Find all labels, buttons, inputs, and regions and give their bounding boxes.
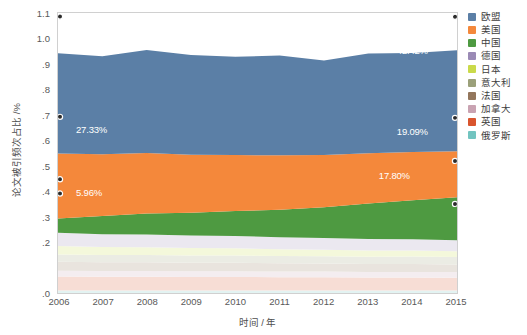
x-tick-label: 2010: [225, 296, 246, 307]
data-point-marker: [452, 158, 457, 163]
x-tick-label: 2007: [93, 296, 114, 307]
legend-item-欧盟[interactable]: 欧盟: [468, 10, 527, 23]
legend-item-label: 加拿大: [481, 104, 511, 114]
legend-swatch-icon: [468, 26, 476, 34]
area-band-加拿大: [58, 271, 457, 278]
legend-item-label: 意大利: [481, 78, 511, 88]
y-tick-label: .3: [42, 211, 50, 222]
legend-item-label: 德国: [481, 51, 501, 61]
legend-swatch-icon: [468, 118, 476, 126]
legend-swatch-icon: [468, 92, 476, 100]
legend-swatch-icon: [468, 105, 476, 113]
x-axis-ticks: 2006200720082009201020112012201320142015: [57, 296, 458, 312]
y-tick-label: .8: [42, 84, 50, 95]
x-tick-label: 2008: [137, 296, 158, 307]
x-tick-label: 2006: [48, 296, 69, 307]
legend-item-label: 中国: [481, 38, 501, 48]
legend-item-加拿大[interactable]: 加拿大: [468, 102, 527, 115]
legend-item-日本[interactable]: 日本: [468, 63, 527, 76]
x-axis-title: 时间 / 年: [57, 315, 458, 329]
x-tick-label: 2012: [313, 296, 334, 307]
area-band-俄罗斯: [58, 290, 457, 293]
legend-item-label: 法国: [481, 91, 501, 101]
legend-item-英国[interactable]: 英国: [468, 116, 527, 129]
y-tick-label: .6: [42, 135, 50, 146]
x-tick-label: 2014: [401, 296, 422, 307]
area-band-欧盟: [58, 50, 457, 155]
legend-item-label: 美国: [481, 25, 501, 35]
data-point-marker: [452, 14, 457, 19]
y-tick-label: 1.0: [37, 33, 50, 44]
legend-swatch-icon: [468, 13, 476, 21]
data-point-marker: [452, 115, 457, 120]
plot-area: 42.37%42.42%27.33%19.09%5.96%17.80%: [57, 12, 458, 294]
y-tick-label: .4: [42, 186, 50, 197]
chart-root: 论文被引频次占比 /% 1.11.0.9.8.7.6.5.4.3.2.1.0 4…: [0, 0, 527, 335]
y-axis-ticks: 1.11.0.9.8.7.6.5.4.3.2.1.0: [20, 0, 54, 335]
area-band-英国: [58, 276, 457, 290]
legend-item-意大利[interactable]: 意大利: [468, 76, 527, 89]
legend-swatch-icon: [468, 65, 476, 73]
legend-item-label: 英国: [481, 117, 501, 127]
data-point-marker: [58, 191, 63, 196]
y-tick-label: 1.1: [37, 8, 50, 19]
x-tick-label: 2015: [445, 296, 466, 307]
x-tick-label: 2013: [357, 296, 378, 307]
legend-item-法国[interactable]: 法国: [468, 89, 527, 102]
legend-swatch-icon: [468, 39, 476, 47]
data-point-marker: [58, 114, 63, 119]
data-point-marker: [58, 177, 63, 182]
legend-swatch-icon: [468, 131, 476, 139]
y-tick-label: .9: [42, 58, 50, 69]
y-tick-label: .7: [42, 109, 50, 120]
x-tick-label: 2011: [269, 296, 289, 307]
x-tick-label: 2009: [181, 296, 202, 307]
stacked-area-svg: [58, 13, 457, 293]
data-point-marker: [58, 14, 63, 19]
legend-item-美国[interactable]: 美国: [468, 23, 527, 36]
legend-swatch-icon: [468, 52, 476, 60]
data-point-marker: [452, 201, 457, 206]
chart-legend: 欧盟美国中国德国日本意大利法国加拿大英国俄罗斯: [468, 10, 527, 142]
legend-swatch-icon: [468, 79, 476, 87]
legend-item-label: 欧盟: [481, 12, 501, 22]
y-tick-label: .2: [42, 237, 50, 248]
legend-item-德国[interactable]: 德国: [468, 50, 527, 63]
legend-item-label: 俄罗斯: [481, 131, 511, 141]
legend-item-label: 日本: [481, 65, 501, 75]
legend-item-中国[interactable]: 中国: [468, 36, 527, 49]
legend-item-俄罗斯[interactable]: 俄罗斯: [468, 129, 527, 142]
y-tick-label: .5: [42, 160, 50, 171]
